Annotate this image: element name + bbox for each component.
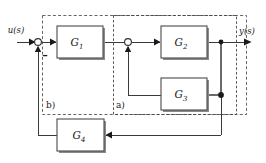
g1-label-subscript: 1 — [79, 43, 83, 51]
input-signal-label: u(s) — [8, 25, 24, 35]
arrowhead-into-g4 — [106, 132, 113, 139]
g3-label-base: G — [175, 88, 183, 100]
g4-label-base: G — [73, 129, 81, 141]
branch-dot-g3-output — [218, 92, 224, 98]
g4-label-subscript: 4 — [80, 136, 85, 144]
arrowhead-feedback-into-sum1 — [35, 46, 41, 52]
g2-label-base: G — [175, 36, 183, 48]
g3-label-subscript: 3 — [183, 95, 188, 103]
arrowhead-g3-into-sum2 — [125, 46, 131, 52]
block-diagram-canvas: u(s) y(s) – G1 G2 G3 G4 b) a) — [0, 0, 266, 163]
region-label-a: a) — [116, 100, 125, 110]
branch-dot-output — [219, 40, 224, 45]
output-signal-label: y(s) — [238, 26, 255, 36]
summing-junction-2[interactable] — [125, 39, 132, 46]
feedback-sign-label: – — [42, 49, 48, 62]
g2-label-subscript: 2 — [182, 43, 188, 51]
arrowhead-sum1-g1 — [50, 39, 57, 46]
arrowhead-output — [244, 38, 252, 45]
arrowhead-sum2-g2 — [154, 39, 161, 46]
g1-label-base: G — [71, 36, 79, 48]
summing-junction-1[interactable] — [35, 39, 42, 46]
region-label-b: b) — [46, 100, 55, 110]
diagram-svg: u(s) y(s) – G1 G2 G3 G4 b) a) — [0, 0, 266, 163]
